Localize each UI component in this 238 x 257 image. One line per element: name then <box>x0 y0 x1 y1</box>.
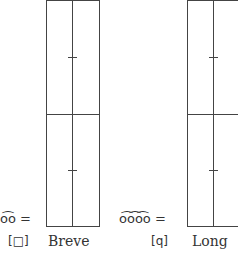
long-tick-upper <box>209 57 218 58</box>
breve-frame-top <box>46 0 100 1</box>
breve-frame-bottom <box>46 226 100 227</box>
long-tick-lower <box>209 170 218 171</box>
breve-label: Breve <box>48 233 89 249</box>
long-label: Long <box>192 233 228 249</box>
breve-tick-upper <box>68 57 77 58</box>
breve-tick-lower <box>68 170 77 171</box>
long-notes-equivalent: o͡o͡o͡o = <box>119 211 166 226</box>
long-glyph: [q] <box>151 234 168 248</box>
breve-glyph: [□] <box>8 234 29 248</box>
long-frame-bottom <box>187 226 238 227</box>
long-frame-divider <box>187 114 238 115</box>
breve-frame-divider <box>46 114 100 115</box>
breve-notes-equivalent: o͡o = <box>0 211 31 226</box>
